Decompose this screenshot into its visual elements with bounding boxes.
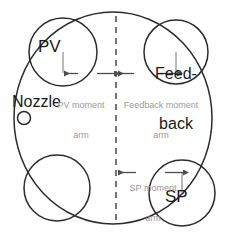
sp-moment-arm-caption: SP moment arm [122, 163, 184, 234]
nozzle-circle [18, 112, 31, 125]
pv-moment-arm-caption: PV moment arm [50, 80, 112, 161]
pv-moment-arm-caption-line2: arm [50, 130, 112, 140]
sp-moment-arm-caption-line2: arm [122, 213, 184, 223]
feedback-moment-arm-caption-line2: arm [122, 130, 200, 140]
pv-moment-arm-caption-line1: PV moment [50, 100, 112, 110]
feedback-moment-arm-caption-line1: Feedback moment [122, 100, 200, 110]
feedback-moment-arm-caption: Feedback moment arm [122, 80, 200, 161]
bottom-left-bellows-circle [24, 155, 90, 221]
pv-label: PV [38, 38, 61, 56]
sp-moment-arm-caption-line1: SP moment [122, 183, 184, 193]
moment-arm-diagram: PV Feed- back Nozzle SP PV moment arm Fe… [0, 0, 226, 234]
